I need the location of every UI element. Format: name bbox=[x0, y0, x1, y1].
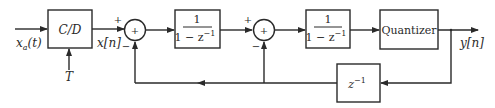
output-label: y[n] bbox=[459, 36, 484, 50]
sum2-plus-sign: + bbox=[244, 14, 252, 25]
delay-label: z−1 bbox=[347, 76, 366, 91]
xn-label: x[n] bbox=[97, 36, 121, 50]
cd-label: C/D bbox=[59, 23, 82, 37]
integrator2-denominator: 1 − z−1 bbox=[306, 29, 347, 44]
integrator1-numerator: 1 bbox=[194, 13, 201, 26]
sum1-minus-sign: − bbox=[122, 41, 130, 52]
block-diagram: xa(t) C/D T x[n] + + − 1 1 − z−1 + + − 1… bbox=[0, 0, 495, 108]
sum2-minus-sign: − bbox=[252, 41, 260, 52]
sum1-plus-sign: + bbox=[114, 14, 122, 25]
sum1-symbol: + bbox=[131, 25, 139, 36]
sum2-symbol: + bbox=[260, 25, 268, 36]
input-label: xa(t) bbox=[16, 36, 42, 52]
integrator2-numerator: 1 bbox=[325, 13, 332, 26]
integrator1-denominator: 1 − z−1 bbox=[175, 29, 216, 44]
feedback-path bbox=[381, 30, 451, 83]
quantizer-label: Quantizer bbox=[381, 24, 437, 37]
sampling-period-label: T bbox=[65, 70, 74, 84]
